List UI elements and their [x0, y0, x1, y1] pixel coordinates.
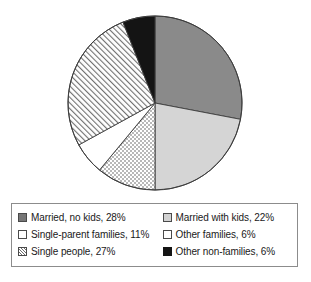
legend-item-other-non-families: Other non-families, 6%	[163, 243, 291, 260]
legend-item-label: Other families, 6%	[176, 229, 256, 240]
chart-legend: Married, no kids, 28% Single-parent fami…	[11, 203, 298, 267]
legend-item-label: Other non-families, 6%	[176, 246, 276, 257]
legend-column-right: Married with kids, 22% Other families, 6…	[163, 209, 291, 266]
legend-swatch-icon	[163, 247, 172, 256]
legend-item-label: Married with kids, 22%	[176, 212, 274, 223]
legend-swatch-icon	[18, 213, 27, 222]
legend-item-married-with-kids: Married with kids, 22%	[163, 209, 291, 226]
legend-item-label: Single-parent families, 11%	[31, 229, 149, 240]
legend-swatch-icon	[18, 247, 27, 256]
legend-item-label: Single people, 27%	[31, 246, 115, 257]
legend-item-married-no-kids: Married, no kids, 28%	[18, 209, 163, 226]
pie-slices-group	[68, 16, 242, 190]
legend-item-single-parent-families: Single-parent families, 11%	[18, 226, 163, 243]
legend-column-left: Married, no kids, 28% Single-parent fami…	[18, 209, 163, 266]
legend-item-label: Married, no kids, 28%	[31, 212, 126, 223]
legend-swatch-icon	[163, 213, 172, 222]
legend-swatch-icon	[18, 230, 27, 239]
pie-slice-married-no-kids	[155, 16, 242, 119]
legend-swatch-icon	[163, 230, 172, 239]
pie-chart-figure	[0, 0, 311, 196]
pie-chart-svg	[0, 0, 311, 196]
legend-item-other-families: Other families, 6%	[163, 226, 291, 243]
legend-item-single-people: Single people, 27%	[18, 243, 163, 260]
